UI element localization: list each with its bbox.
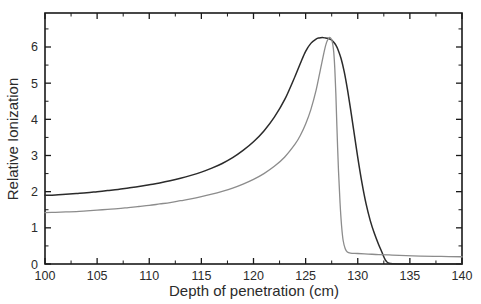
x-tick-label: 140 — [452, 269, 473, 283]
y-axis-title: Relative Ionization — [4, 78, 21, 201]
plot-border — [45, 13, 462, 264]
x-tick-label: 135 — [399, 269, 420, 283]
plot-frame — [45, 13, 462, 264]
x-tick-label: 120 — [243, 269, 264, 283]
y-tick-label: 6 — [31, 40, 38, 54]
axis-tick-labels: 1001051101151201251301351400123456 — [31, 40, 472, 283]
data-series — [45, 37, 462, 264]
y-tick-label: 3 — [31, 149, 38, 163]
y-tick-label: 5 — [31, 77, 38, 91]
x-tick-label: 105 — [87, 269, 108, 283]
series-sharp-bragg-peak — [45, 37, 462, 256]
x-tick-label: 125 — [295, 269, 316, 283]
y-tick-label: 0 — [31, 258, 38, 272]
y-tick-label: 1 — [31, 221, 38, 235]
chart-figure: 1001051101151201251301351400123456 Depth… — [0, 0, 481, 304]
bragg-peak-chart: 1001051101151201251301351400123456 Depth… — [0, 0, 481, 304]
x-tick-label: 110 — [139, 269, 159, 283]
series-broad-bragg-peak — [45, 38, 462, 264]
axis-ticks — [45, 13, 462, 264]
x-axis-title: Depth of penetration (cm) — [169, 282, 339, 299]
x-tick-label: 130 — [347, 269, 368, 283]
y-tick-label: 4 — [31, 113, 38, 127]
y-tick-label: 2 — [31, 185, 38, 199]
x-tick-label: 115 — [191, 269, 211, 283]
